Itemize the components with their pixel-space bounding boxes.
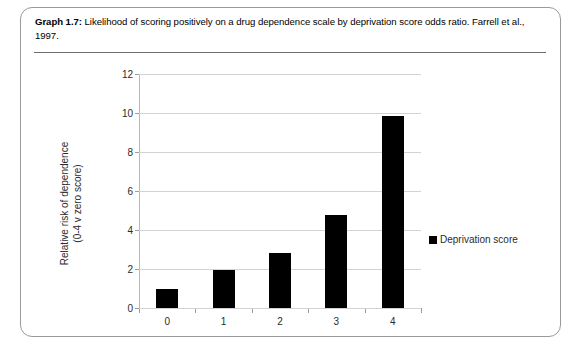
x-axis-tick-label: 3 bbox=[316, 316, 356, 327]
caption-divider bbox=[34, 52, 546, 53]
bar bbox=[213, 270, 235, 308]
bar bbox=[156, 289, 178, 309]
plot-area bbox=[139, 74, 421, 308]
bar bbox=[269, 253, 291, 308]
y-axis-tick-label: 10 bbox=[107, 108, 133, 119]
y-axis-tick-mark bbox=[135, 152, 139, 153]
y-axis-tick-mark bbox=[135, 230, 139, 231]
x-axis-tick-mark bbox=[139, 309, 140, 313]
gridline bbox=[139, 74, 421, 75]
figure-caption: Graph 1.7: Likelihood of scoring positiv… bbox=[35, 15, 543, 42]
y-axis-title: Relative risk of dependence (0-4 v zero … bbox=[59, 124, 84, 284]
y-axis-tick-labels: 024681012 bbox=[105, 74, 133, 308]
y-axis-tick-label: 0 bbox=[107, 303, 133, 314]
y-axis-title-line-1: Relative risk of dependence bbox=[59, 124, 72, 284]
x-axis-tick-mark bbox=[195, 309, 196, 313]
y-axis-tick-mark bbox=[135, 113, 139, 114]
x-axis-tick-label: 2 bbox=[260, 316, 300, 327]
x-axis-tick-labels: 01234 bbox=[139, 316, 422, 332]
y-axis-tick-label: 12 bbox=[107, 69, 133, 80]
y-axis-tick-label: 6 bbox=[107, 186, 133, 197]
x-axis-tick-label: 0 bbox=[147, 316, 187, 327]
bar-chart: Relative risk of dependence (0-4 v zero … bbox=[21, 56, 562, 336]
x-axis-tick-label: 4 bbox=[373, 316, 413, 327]
y-axis-tick-mark bbox=[135, 191, 139, 192]
x-axis-tick-label: 1 bbox=[204, 316, 244, 327]
y-axis-tick-mark bbox=[135, 74, 139, 75]
gridline bbox=[139, 113, 421, 114]
gridline bbox=[139, 152, 421, 153]
x-axis-tick-marks bbox=[139, 309, 422, 314]
bar bbox=[325, 215, 347, 308]
y-axis-tick-label: 8 bbox=[107, 147, 133, 158]
x-axis-tick-mark bbox=[252, 309, 253, 313]
x-axis-tick-mark bbox=[421, 309, 422, 313]
y-axis-tick-mark bbox=[135, 269, 139, 270]
gridline bbox=[139, 230, 421, 231]
figure-caption-label: Graph 1.7: bbox=[35, 16, 82, 27]
gridline bbox=[139, 191, 421, 192]
y-axis-tick-label: 4 bbox=[107, 225, 133, 236]
x-axis-tick-mark bbox=[365, 309, 366, 313]
chart-legend: Deprivation score bbox=[429, 234, 518, 245]
y-axis-tick-label: 2 bbox=[107, 264, 133, 275]
y-axis-title-line-2: (0-4 v zero score) bbox=[71, 124, 84, 284]
figure-card: Graph 1.7: Likelihood of scoring positiv… bbox=[20, 7, 561, 337]
figure-caption-text: Likelihood of scoring positively on a dr… bbox=[35, 16, 524, 41]
legend-swatch-deprivation-score bbox=[429, 236, 437, 244]
x-axis-tick-mark bbox=[308, 309, 309, 313]
bar bbox=[382, 116, 404, 308]
legend-label-deprivation-score: Deprivation score bbox=[440, 234, 518, 245]
